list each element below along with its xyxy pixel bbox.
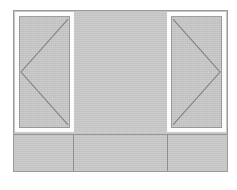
left-window-opening[interactable]	[15, 12, 74, 132]
left-swing-indicator-icon	[20, 17, 69, 127]
facade-body	[13, 10, 228, 172]
lower-center-panel	[73, 135, 168, 171]
lower-left-panel	[14, 135, 73, 171]
right-window-opening[interactable]	[167, 12, 226, 132]
lower-band	[14, 135, 227, 171]
right-window-sash	[171, 16, 222, 128]
left-window-sash	[19, 16, 70, 128]
upper-wall	[14, 11, 227, 134]
elevation-drawing-canvas	[0, 0, 237, 190]
right-swing-indicator-icon	[172, 17, 221, 127]
lower-right-panel	[168, 135, 227, 171]
